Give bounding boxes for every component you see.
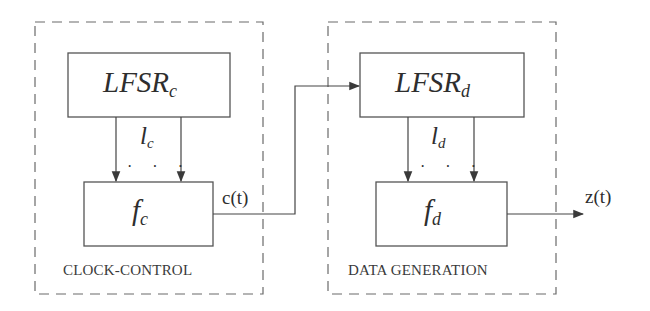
fd-subscript: d [432, 209, 441, 229]
zt-signal-label: z(t) [585, 186, 611, 208]
ld-label: ld [431, 122, 445, 150]
lc-label: lc [140, 122, 154, 150]
fc-label: fc [132, 194, 148, 227]
f-c-block [84, 182, 213, 246]
fd-label: fd [424, 194, 441, 227]
lfsr-d-main: LFSR [395, 66, 461, 98]
clock-control-label: CLOCK-CONTROL [63, 262, 192, 279]
ct-signal-label: c(t) [222, 187, 248, 209]
lc-subscript: c [147, 135, 154, 151]
lfsr-c-label: LFSRc [103, 66, 177, 99]
lc-ellipsis: · · · [127, 158, 191, 176]
lfsr-d-subscript: d [461, 81, 470, 101]
f-d-block [376, 182, 507, 246]
ld-ellipsis: · · · [420, 158, 484, 176]
fc-main: f [132, 194, 140, 226]
ld-main: l [431, 122, 438, 149]
lfsr-c-main: LFSR [103, 66, 169, 98]
data-generation-label: DATA GENERATION [348, 262, 488, 279]
lc-main: l [140, 122, 147, 149]
lfsr-c-subscript: c [169, 81, 177, 101]
fc-subscript: c [140, 209, 148, 229]
fd-main: f [424, 194, 432, 226]
ld-subscript: d [438, 135, 446, 151]
lfsr-d-label: LFSRd [395, 66, 470, 99]
